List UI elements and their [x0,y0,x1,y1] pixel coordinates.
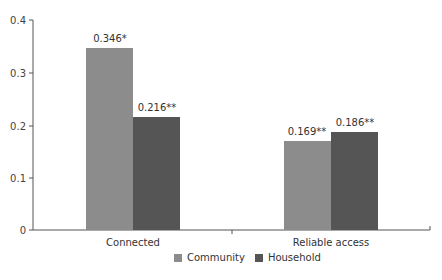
bar-reliable-household [331,132,378,230]
legend-label: Household [268,252,321,263]
bar-reliable-community [284,141,331,230]
value-label: 0.186** [336,117,375,128]
legend-item-household: Household [255,252,321,263]
y-tick-label: 0.1 [10,173,26,184]
bar-connected-household [133,117,180,230]
category-label: Reliable access [293,237,370,248]
legend-label: Community [187,252,245,263]
value-label: 0.169** [288,126,327,137]
y-tick-label: 0.3 [10,68,26,79]
category-label: Connected [106,237,160,248]
y-tick-label: 0.2 [10,121,26,132]
y-tick-label: 0 [20,225,26,236]
value-label: 0.346* [93,33,127,44]
y-ticks [29,20,33,230]
bar-chart: 0 0.1 0.2 0.3 0.4 0.346* 0.216** 0.169**… [0,0,442,280]
community-swatch-icon [174,254,182,262]
bar-connected-community [86,48,133,230]
household-swatch-icon [255,254,263,262]
legend: Community Household [174,252,331,263]
legend-item-community: Community [174,252,245,263]
value-label: 0.216** [138,102,177,113]
y-tick-label: 0.4 [10,15,26,26]
